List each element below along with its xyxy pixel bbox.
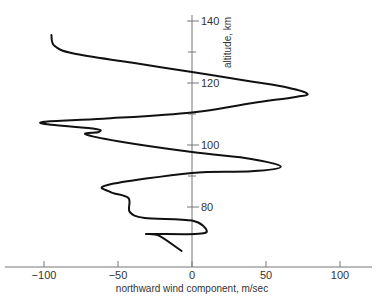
x-axis-title: northward wind component, m/sec [116,283,268,294]
y-axis-ticks [187,21,199,207]
y-tick-label: 80 [201,201,213,213]
x-tick-label: 100 [331,269,349,281]
x-tick-label: −100 [32,269,57,281]
x-tick-label: 50 [260,269,272,281]
x-tick-label: −50 [109,269,128,281]
y-axis-title: altitude, km [222,17,233,68]
y-tick-label: 100 [201,139,219,151]
y-tick-label: 120 [201,77,219,89]
x-tick-label: 0 [189,269,195,281]
wind-profile-curve [40,35,307,251]
wind-profile-chart: −100 −50 0 50 100 northward wind compone… [0,0,376,302]
y-tick-label: 140 [201,15,219,27]
